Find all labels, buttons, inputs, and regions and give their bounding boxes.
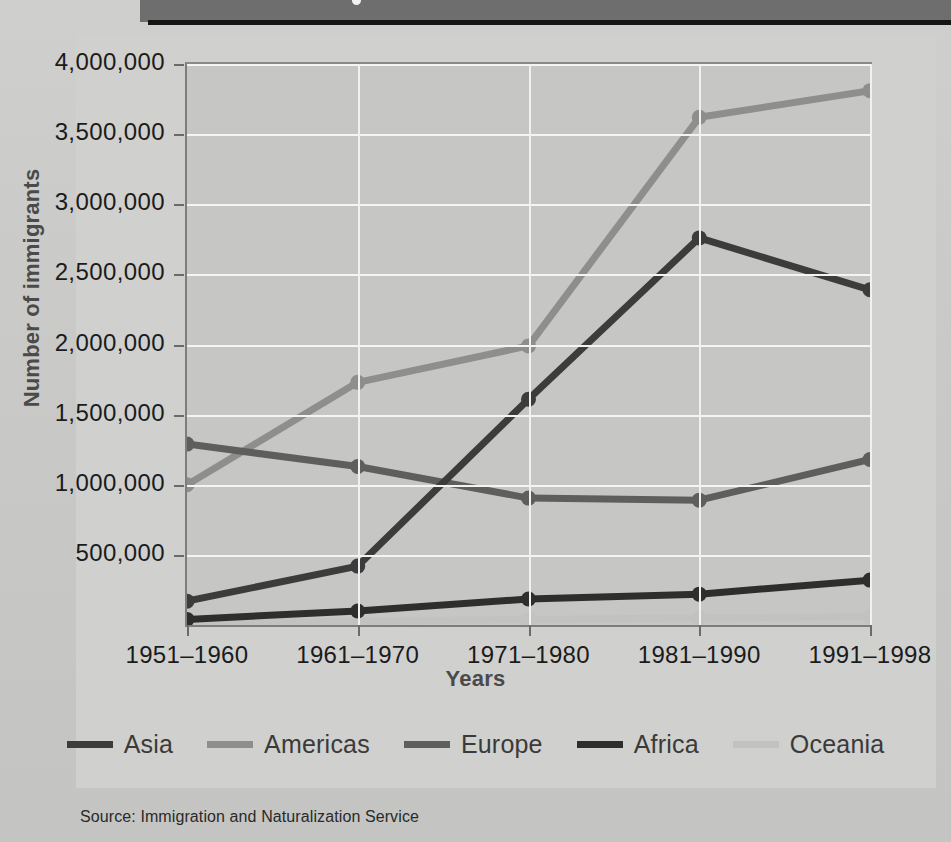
y-axis-tick-mark <box>174 134 184 136</box>
legend-swatch-icon <box>577 741 623 748</box>
y-axis-tick-label: 500,000 <box>5 539 165 567</box>
gridline-vertical <box>870 64 872 625</box>
legend-item-asia[interactable]: Asia <box>67 730 173 759</box>
data-point-europe <box>863 452 871 467</box>
y-axis-tick-label: 3,000,000 <box>5 188 165 216</box>
y-axis-tick-mark <box>174 64 184 66</box>
y-axis-title: Number of immigrants <box>19 88 45 488</box>
legend-item-oceania[interactable]: Oceania <box>733 730 885 759</box>
x-axis-title: Years <box>0 666 951 692</box>
x-axis-tick-mark <box>187 625 189 636</box>
data-point-oceania <box>863 609 871 624</box>
y-axis-tick-label: 1,500,000 <box>5 399 165 427</box>
x-axis-tick-label: 1981–1990 <box>609 641 789 669</box>
data-point-africa <box>187 612 195 625</box>
legend-item-americas[interactable]: Americas <box>207 730 370 759</box>
plot-area <box>185 62 872 627</box>
x-axis-tick-mark <box>699 625 701 636</box>
y-axis-tick-label: 4,000,000 <box>5 48 165 76</box>
x-axis-tick-label: 1961–1970 <box>268 641 448 669</box>
legend-swatch-icon <box>67 741 113 748</box>
chapter-banner <box>140 0 951 22</box>
x-axis-tick-mark <box>870 625 872 636</box>
gridline-vertical <box>529 64 531 625</box>
legend-swatch-icon <box>207 741 253 748</box>
chart-legend: AsiaAmericasEuropeAfricaOceania <box>0 730 951 759</box>
y-axis-tick-mark <box>174 274 184 276</box>
legend-label: Oceania <box>790 730 885 759</box>
banner-rule <box>148 20 951 25</box>
gridline-vertical <box>358 64 360 625</box>
legend-swatch-icon <box>404 741 450 748</box>
data-point-asia <box>187 594 195 609</box>
data-point-africa <box>863 573 871 588</box>
data-point-europe <box>187 437 195 452</box>
y-axis-tick-label: 1,000,000 <box>5 469 165 497</box>
y-axis-tick-label: 3,500,000 <box>5 118 165 146</box>
figure-page: Number of immigrants 4,000,0003,500,0003… <box>0 0 951 842</box>
data-point-americas <box>863 83 871 98</box>
x-axis-tick-label: 1951–1960 <box>97 641 277 669</box>
y-axis-tick-mark <box>174 204 184 206</box>
legend-swatch-icon <box>733 741 779 748</box>
x-axis-tick-mark <box>529 625 531 636</box>
source-note: Source: Immigration and Naturalization S… <box>80 808 419 826</box>
y-axis-tick-mark <box>174 485 184 487</box>
legend-item-africa[interactable]: Africa <box>577 730 699 759</box>
y-axis-tick-mark <box>174 345 184 347</box>
x-axis-tick-label: 1991–1998 <box>780 641 951 669</box>
y-axis-tick-label: 2,000,000 <box>5 329 165 357</box>
y-axis-tick-mark <box>174 555 184 557</box>
legend-label: Asia <box>124 730 173 759</box>
x-axis-tick-mark <box>358 625 360 636</box>
x-axis-tick-label: 1971–1980 <box>439 641 619 669</box>
gridline-vertical <box>699 64 701 625</box>
legend-label: Europe <box>461 730 543 759</box>
legend-label: Africa <box>634 730 699 759</box>
y-axis-tick-label: 2,500,000 <box>5 258 165 286</box>
legend-item-europe[interactable]: Europe <box>404 730 543 759</box>
legend-label: Americas <box>264 730 370 759</box>
y-axis-tick-mark <box>174 415 184 417</box>
